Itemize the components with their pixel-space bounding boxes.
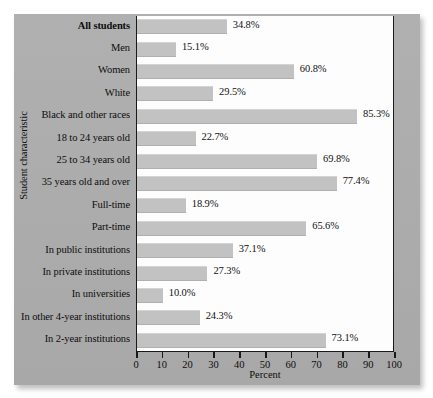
category-label: 18 to 24 years old: [57, 132, 130, 143]
bar: [137, 64, 294, 79]
bar-value-label: 24.3%: [206, 310, 233, 321]
x-axis-title: Percent: [136, 369, 394, 380]
bar: [137, 266, 207, 281]
bar: [137, 221, 306, 236]
bar: [137, 243, 233, 258]
bar-row: 22.7%: [137, 128, 393, 150]
category-label: In 2-year institutions: [45, 333, 130, 344]
x-tick-mark: [213, 352, 215, 358]
bar: [137, 198, 186, 213]
bar-value-label: 15.1%: [182, 41, 209, 52]
bar-row: 37.1%: [137, 240, 393, 262]
bar-row: 18.9%: [137, 195, 393, 217]
category-label: Part-time: [92, 221, 130, 232]
category-label: Men: [111, 42, 130, 53]
x-tick-mark: [342, 352, 344, 358]
bar-row: 73.1%: [137, 330, 393, 352]
x-tick-mark: [317, 352, 319, 358]
bar: [137, 176, 337, 191]
bar-value-label: 77.4%: [343, 175, 370, 186]
bar-chart-figure: Student characteristic All studentsMenWo…: [0, 0, 433, 398]
bar-value-label: 18.9%: [192, 198, 219, 209]
bar-row: 10.0%: [137, 285, 393, 307]
x-tick-mark: [188, 352, 190, 358]
x-tick-mark: [162, 352, 164, 358]
bar-value-label: 37.1%: [239, 243, 266, 254]
bar: [137, 288, 163, 303]
x-tick-mark: [265, 352, 267, 358]
x-tick-mark: [394, 352, 396, 358]
bar: [137, 333, 326, 348]
category-label: Full-time: [92, 199, 130, 210]
category-label: In other 4-year institutions: [21, 311, 130, 322]
plot-area: 34.8%15.1%60.8%29.5%85.3%22.7%69.8%77.4%…: [136, 16, 394, 352]
bar: [137, 86, 213, 101]
bar: [137, 42, 176, 57]
x-tick-mark: [136, 352, 138, 358]
bar-row: 34.8%: [137, 16, 393, 38]
bar-value-label: 60.8%: [300, 63, 327, 74]
x-tick-mark: [368, 352, 370, 358]
category-label: 25 to 34 years old: [57, 154, 130, 165]
bar-value-label: 27.3%: [213, 265, 240, 276]
category-label: Black and other races: [41, 109, 130, 120]
bar-value-label: 85.3%: [363, 108, 390, 119]
bar-value-label: 73.1%: [332, 332, 359, 343]
bar: [137, 310, 200, 325]
bar-row: 69.8%: [137, 150, 393, 172]
bar-row: 15.1%: [137, 38, 393, 60]
bar-value-label: 34.8%: [233, 19, 260, 30]
category-label: All students: [78, 20, 130, 31]
bar-row: 24.3%: [137, 307, 393, 329]
bar-rows: 34.8%15.1%60.8%29.5%85.3%22.7%69.8%77.4%…: [137, 16, 393, 351]
bar-value-label: 65.6%: [312, 220, 339, 231]
bar-value-label: 10.0%: [169, 287, 196, 298]
category-label: White: [105, 87, 130, 98]
bar: [137, 19, 227, 34]
bar-row: 29.5%: [137, 83, 393, 105]
bar-value-label: 69.8%: [323, 153, 350, 164]
x-tick-mark: [239, 352, 241, 358]
bar-value-label: 22.7%: [202, 131, 229, 142]
category-label: Women: [98, 64, 130, 75]
bar-value-label: 29.5%: [219, 86, 246, 97]
category-label: In private institutions: [42, 266, 130, 277]
category-label: 35 years old and over: [42, 176, 130, 187]
category-label-list: All studentsMenWomenWhiteBlack and other…: [20, 16, 133, 352]
x-tick-mark: [291, 352, 293, 358]
category-label: In universities: [72, 288, 130, 299]
bar-row: 85.3%: [137, 106, 393, 128]
bar-row: 65.6%: [137, 218, 393, 240]
bar: [137, 109, 357, 124]
category-label: In public institutions: [45, 244, 130, 255]
bar-row: 77.4%: [137, 173, 393, 195]
bar: [137, 154, 317, 169]
bar-row: 27.3%: [137, 262, 393, 284]
bar-row: 60.8%: [137, 61, 393, 83]
bar: [137, 131, 196, 146]
